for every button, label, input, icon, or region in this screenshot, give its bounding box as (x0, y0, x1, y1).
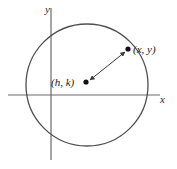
diagram-canvas: (h, k) (x, y) x y (0, 0, 177, 169)
center-point-label: (h, k) (51, 76, 75, 89)
center-point-dot (83, 79, 88, 84)
x-axis-label: x (159, 93, 165, 105)
y-axis-label: y (44, 3, 50, 15)
circumference-point-label: (x, y) (133, 43, 156, 56)
radius-double-arrow (90, 52, 125, 80)
circumference-point-dot (125, 46, 130, 51)
circle-diagram-figure: (h, k) (x, y) x y (0, 0, 177, 169)
circle-shape (26, 24, 148, 146)
